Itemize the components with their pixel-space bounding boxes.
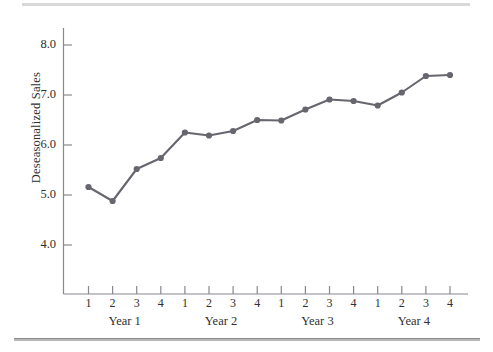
y-tick-label: 7.0 [16,87,56,102]
x-group-label: Year 2 [181,314,261,329]
x-tick-label: 1 [271,296,291,311]
chart-page: Deseasonalized Sales 8.07.06.05.04.0 123… [0,0,493,352]
data-point [423,73,429,79]
x-tick-label: 1 [368,296,388,311]
x-group-label: Year 1 [85,314,165,329]
data-point [399,89,405,95]
x-tick-label: 2 [103,296,123,311]
data-point [351,98,357,104]
data-point [447,72,453,78]
y-tick-marks [64,45,73,245]
data-point [182,129,188,135]
data-point [158,155,164,161]
data-point [278,117,284,123]
x-tick-label: 1 [175,296,195,311]
x-tick-label: 4 [344,296,364,311]
bottom-divider-rule [14,338,480,341]
data-point [375,102,381,108]
x-tick-label: 2 [392,296,412,311]
x-tick-label: 3 [416,296,436,311]
data-point [326,96,332,102]
x-tick-marks [89,286,451,294]
line-chart: Deseasonalized Sales 8.07.06.05.04.0 123… [0,0,493,352]
data-point [254,117,260,123]
y-axis-label: Deseasonalized Sales [29,48,44,208]
x-tick-label: 4 [247,296,267,311]
data-point [110,198,116,204]
x-tick-label: 3 [223,296,243,311]
data-point-markers [85,72,453,204]
x-tick-label: 3 [127,296,147,311]
x-tick-label: 2 [199,296,219,311]
x-tick-label: 1 [79,296,99,311]
x-tick-label: 3 [320,296,340,311]
x-group-label: Year 4 [374,314,454,329]
data-point [206,132,212,138]
y-tick-label: 8.0 [16,37,56,52]
x-tick-label: 4 [440,296,460,311]
data-point [134,166,140,172]
x-group-label: Year 3 [277,314,357,329]
y-tick-label: 6.0 [16,137,56,152]
data-point [230,128,236,134]
x-tick-label: 4 [151,296,171,311]
data-point [85,184,91,190]
data-line [89,75,451,201]
data-point [302,106,308,112]
y-tick-label: 4.0 [16,237,56,252]
y-tick-label: 5.0 [16,187,56,202]
x-tick-label: 2 [295,296,315,311]
